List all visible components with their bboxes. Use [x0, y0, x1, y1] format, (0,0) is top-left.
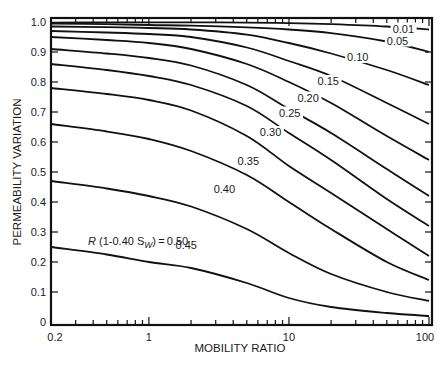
x-tick-label: 1 — [146, 331, 152, 343]
parameter-label: R (1-0.40 SW) = 0.50 — [88, 235, 188, 250]
curves — [51, 22, 429, 316]
curve-0-15 — [51, 31, 429, 124]
y-tick-label: 0.3 — [31, 226, 46, 238]
y-tick-label: 0.9 — [31, 46, 46, 58]
y-tick-label: 0.4 — [31, 196, 46, 208]
curve-label-0-10: 0.10 — [347, 51, 368, 63]
curve-label-0-25: 0.25 — [279, 107, 300, 119]
y-tick-label: 1.0 — [31, 16, 46, 28]
curve-label-0-01: 0.01 — [393, 23, 414, 35]
curve-0-25 — [51, 49, 429, 196]
curve-label-0-30: 0.30 — [260, 126, 281, 138]
y-tick-label: 0.1 — [31, 286, 46, 298]
x-tick-label: 100 — [416, 331, 434, 343]
y-tick-label: 0.5 — [31, 166, 46, 178]
y-tick-label: 0.6 — [31, 136, 46, 148]
x-tick-label: 0.2 — [47, 331, 62, 343]
curve-label-0-20: 0.20 — [297, 92, 318, 104]
curve-0-20 — [51, 37, 429, 160]
y-tick-label: 0.8 — [31, 76, 46, 88]
chart: 0.2110100 00.10.20.30.40.50.60.70.80.91.… — [0, 0, 445, 371]
x-axis-title: MOBILITY RATIO — [195, 342, 286, 354]
curve-0-50 — [51, 247, 429, 316]
curve-label-0-35: 0.35 — [238, 155, 259, 167]
curve-0-10 — [51, 27, 429, 86]
curve-0-30 — [51, 64, 429, 226]
y-axis-ticks: 00.10.20.30.40.50.60.70.80.91.0 — [31, 16, 432, 328]
y-tick-label: 0.2 — [31, 256, 46, 268]
y-tick-label: 0 — [40, 316, 46, 328]
curve-label-0-40: 0.40 — [214, 183, 235, 195]
curve-label-0-05: 0.05 — [387, 35, 408, 47]
y-tick-label: 0.7 — [31, 106, 46, 118]
y-axis-title: PERMEABILITY VARIATION — [11, 99, 23, 246]
curve-0-40 — [51, 124, 429, 280]
curve-label-0-15: 0.15 — [318, 75, 339, 87]
